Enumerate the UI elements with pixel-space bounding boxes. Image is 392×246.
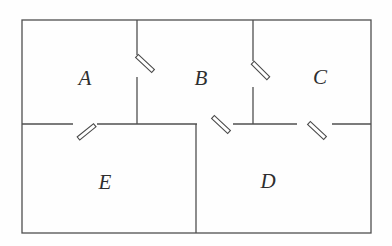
room-label-e: E — [99, 172, 112, 193]
room-label-d: D — [260, 171, 275, 192]
room-label-c: C — [313, 67, 327, 88]
door-e — [77, 124, 96, 140]
door-b-c — [251, 61, 269, 79]
room-label-a: A — [79, 68, 92, 89]
door-b-d — [212, 116, 231, 134]
floor-plan-diagram: A B C D E — [0, 0, 392, 246]
room-label-b: B — [195, 68, 208, 89]
door-a-b — [136, 55, 155, 73]
door-c-d — [308, 122, 327, 140]
floor-plan-canvas — [0, 0, 392, 246]
